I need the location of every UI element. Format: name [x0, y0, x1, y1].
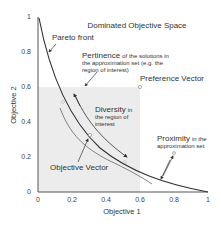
objective-vector-label: Objective Vector	[50, 163, 109, 172]
svg-text:0.8: 0.8	[169, 196, 179, 203]
svg-text:region of interest): region of interest)	[82, 67, 129, 73]
svg-text:0.6: 0.6	[135, 196, 145, 203]
proximity-label: Proximityin the approximation set	[157, 134, 207, 149]
proximity-arrow-down	[161, 160, 170, 179]
svg-text:Proximityin the: Proximityin the	[157, 134, 207, 143]
diagram-title: Dominated Objective Space	[87, 21, 187, 30]
svg-text:the region of: the region of	[95, 114, 129, 120]
svg-text:Diversityin: Diversityin	[95, 105, 132, 114]
svg-text:interest: interest	[95, 121, 115, 127]
x-tick-labels: 0 0.2 0.4 0.6 0.8 1	[36, 196, 210, 203]
pareto-diagram: 0 0.2 0.4 0.6 0.8 1 0 0.2 0.4 0.6 0.8 1 …	[0, 0, 221, 227]
svg-text:0.4: 0.4	[21, 118, 31, 125]
svg-text:1: 1	[206, 196, 210, 203]
svg-text:0.2: 0.2	[67, 196, 77, 203]
y-tick-labels: 0 0.2 0.4 0.6 0.8 1	[21, 13, 31, 195]
proximity-arrow-up	[163, 156, 173, 176]
svg-text:Pertinenceof the solutions in: Pertinenceof the solutions in	[82, 51, 169, 60]
svg-text:0: 0	[36, 196, 40, 203]
pertinence-arrow	[85, 72, 97, 86]
svg-text:0.2: 0.2	[21, 153, 31, 160]
svg-text:0.6: 0.6	[21, 83, 31, 90]
objective-vector-point	[88, 133, 91, 136]
svg-text:0.8: 0.8	[21, 48, 31, 55]
svg-text:1: 1	[27, 13, 31, 20]
preference-vector-point	[138, 85, 141, 88]
region-of-interest	[38, 87, 140, 192]
proximity-point	[173, 152, 176, 155]
svg-text:0: 0	[27, 188, 31, 195]
solution-point-lower	[124, 161, 127, 164]
x-axis-label: Objective 1	[103, 207, 141, 216]
solution-point-upper	[62, 101, 65, 104]
pertinence-label: Pertinenceof the solutions in the approx…	[82, 51, 169, 73]
svg-text:0.4: 0.4	[101, 196, 111, 203]
y-axis-label: Objective 2	[9, 86, 18, 124]
preference-vector-label: Preference Vector	[140, 74, 204, 83]
svg-text:the approximation set (e.g. th: the approximation set (e.g. the	[82, 60, 164, 66]
svg-text:approximation set: approximation set	[157, 143, 205, 149]
pareto-front-label: Pareto front	[52, 33, 95, 42]
pareto-front-arrow	[49, 44, 56, 52]
